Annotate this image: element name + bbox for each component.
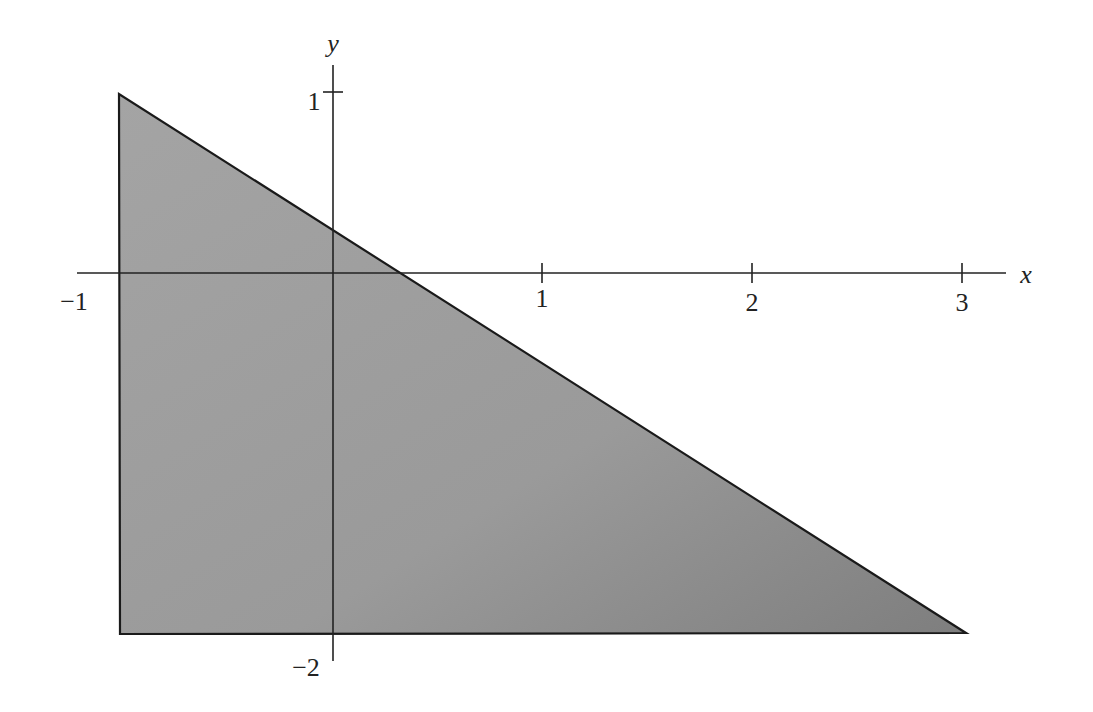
x-tick-label-3: 3 <box>956 288 969 317</box>
shaded-triangle-region <box>119 94 966 634</box>
x-tick-label-1: 1 <box>536 284 549 313</box>
x-tick-label-neg1: −1 <box>60 287 88 316</box>
x-tick-label-2: 2 <box>746 288 759 317</box>
y-axis-label: y <box>324 29 339 58</box>
triangle-region-diagram: y x −1 1 2 3 1 −2 <box>0 0 1093 712</box>
y-tick-label-neg2: −2 <box>292 653 320 682</box>
y-tick-label-1: 1 <box>308 87 321 116</box>
x-axis-label: x <box>1019 260 1032 289</box>
